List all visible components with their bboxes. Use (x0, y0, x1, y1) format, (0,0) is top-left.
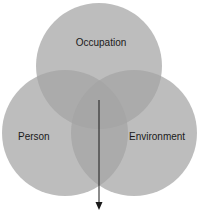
label-environment: Environment (129, 131, 185, 142)
label-person: Person (18, 131, 50, 142)
arrow-head-icon (96, 202, 103, 210)
venn-diagram: Occupation Person Environment (0, 0, 205, 218)
label-occupation: Occupation (76, 37, 127, 48)
